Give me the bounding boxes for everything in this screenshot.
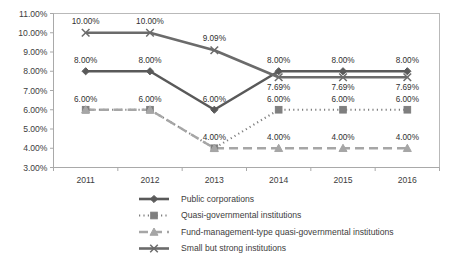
data-point-marker xyxy=(150,195,157,202)
data-label: 6.00% xyxy=(74,95,97,104)
data-point-marker xyxy=(151,212,158,219)
data-point-marker xyxy=(82,68,89,75)
y-axis-tick-label: 8.00% xyxy=(23,66,48,76)
y-axis-tick-label: 6.00% xyxy=(23,105,48,115)
y-axis-tick-label: 11.00% xyxy=(19,9,48,19)
data-label: 4.00% xyxy=(331,133,354,142)
legend-label-3: Small but strong institutions xyxy=(181,243,286,253)
data-point-marker xyxy=(340,106,347,113)
y-axis-tick-label: 4.00% xyxy=(23,143,48,153)
data-label: 7.69% xyxy=(267,83,290,92)
y-axis xyxy=(50,14,54,168)
y-axis-tick-label: 10.00% xyxy=(18,28,48,38)
y-axis-tick-label: 3.00% xyxy=(23,163,48,173)
data-label: 6.00% xyxy=(396,95,419,104)
x-axis-tick-label: 2013 xyxy=(205,175,224,185)
series-line-1 xyxy=(86,110,408,149)
data-label: 6.00% xyxy=(138,95,161,104)
data-label: 8.00% xyxy=(396,56,419,65)
y-axis-tick-labels: 3.00%4.00%5.00%6.00%7.00%8.00%9.00%10.00… xyxy=(18,9,48,173)
line-chart: 3.00%4.00%5.00%6.00%7.00%8.00%9.00%10.00… xyxy=(0,0,463,260)
data-label: 7.69% xyxy=(396,83,419,92)
data-label: 8.00% xyxy=(74,56,97,65)
data-label: 8.00% xyxy=(331,56,354,65)
series-lines xyxy=(86,33,408,149)
y-axis-tick-label: 9.00% xyxy=(23,47,48,57)
legend-label-1: Quasi-governmental institutions xyxy=(181,210,301,220)
legend-label-0: Public corporations xyxy=(181,194,254,204)
data-label: 6.00% xyxy=(203,95,226,104)
y-axis-tick-label: 5.00% xyxy=(23,124,48,134)
data-label: 10.00% xyxy=(72,17,100,26)
data-label: 4.00% xyxy=(267,133,290,142)
x-axis-tick-label: 2016 xyxy=(398,175,417,185)
data-point-marker xyxy=(404,106,411,113)
x-axis-tick-label: 2011 xyxy=(76,175,95,185)
y-axis-tick-label: 7.00% xyxy=(23,86,48,96)
data-label: 10.00% xyxy=(136,17,164,26)
data-label: 7.69% xyxy=(331,83,354,92)
data-label: 6.00% xyxy=(267,95,290,104)
x-axis xyxy=(54,168,440,172)
data-label: 9.09% xyxy=(203,34,226,43)
x-axis-tick-labels: 201120122013201420152016 xyxy=(76,175,417,185)
data-label: 4.00% xyxy=(396,133,419,142)
data-label: 8.00% xyxy=(267,56,290,65)
data-label: 8.00% xyxy=(138,56,161,65)
x-axis-tick-label: 2012 xyxy=(140,175,159,185)
x-axis-tick-label: 2015 xyxy=(333,175,352,185)
data-label: 6.00% xyxy=(331,95,354,104)
data-labels: 8.00%8.00%6.00%8.00%8.00%8.00%6.00%6.00%… xyxy=(72,17,419,143)
legend-label-2: Fund-management-type quasi-governmental … xyxy=(181,227,394,237)
x-axis-tick-label: 2014 xyxy=(269,175,288,185)
chart-canvas: 3.00%4.00%5.00%6.00%7.00%8.00%9.00%10.00… xyxy=(0,0,463,260)
chart-legend: Public corporationsQuasi-governmental in… xyxy=(139,194,394,254)
data-label: 4.00% xyxy=(203,133,226,142)
data-point-marker xyxy=(275,106,282,113)
